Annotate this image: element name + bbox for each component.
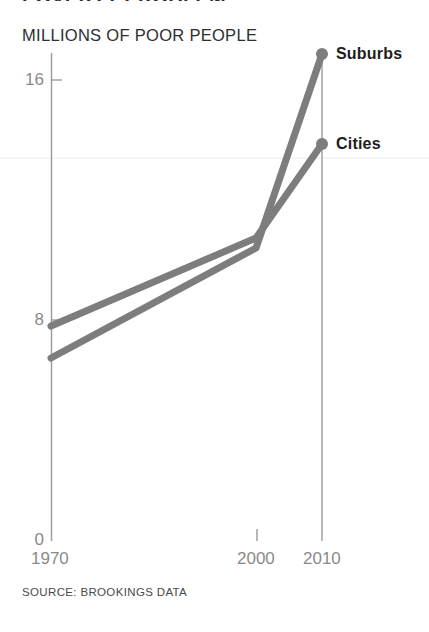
x-axis-tick-label-2010: 2010: [303, 549, 341, 569]
series-label-suburbs: Suburbs: [336, 45, 402, 63]
y-axis-tick-label-0: 0: [10, 530, 44, 550]
y-axis-tick-label-16: 16: [10, 70, 44, 90]
chart-container: POVERTY PROBLEM MILLIONS OF POOR PEOPLE …: [0, 0, 429, 632]
series-label-cities: Cities: [336, 135, 381, 153]
x-axis-tick-label-2000: 2000: [237, 549, 275, 569]
data-point-cities-2010: [316, 138, 328, 150]
source-note: SOURCE: BROOKINGS DATA: [22, 586, 187, 598]
data-point-suburbs-2010: [316, 48, 328, 60]
x-axis-tick-label-1970: 1970: [31, 549, 69, 569]
plot-area: [0, 0, 429, 632]
y-axis-tick-label-8: 8: [10, 310, 44, 330]
